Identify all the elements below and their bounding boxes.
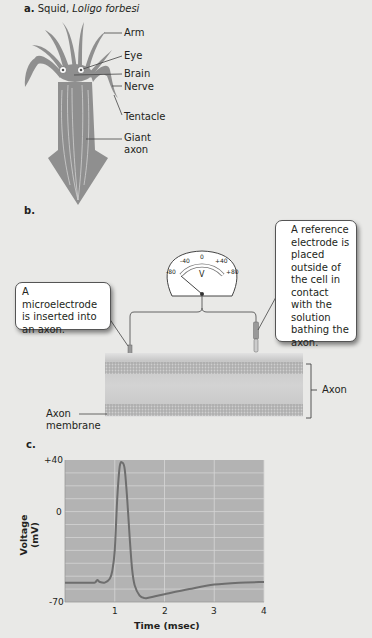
x-tick-2: 2 [162,606,168,616]
y-axis-title: Voltage (mV) [18,500,40,570]
y-tick-plus40: +40 [44,455,63,465]
y-tick-minus70: -70 [49,597,64,607]
x-tick-1: 1 [112,606,118,616]
y-tick-zero: 0 [56,507,62,517]
x-axis-title: Time (msec) [134,620,200,631]
x-tick-4: 4 [261,606,267,616]
action-potential-chart [0,0,372,638]
x-tick-3: 3 [211,606,217,616]
